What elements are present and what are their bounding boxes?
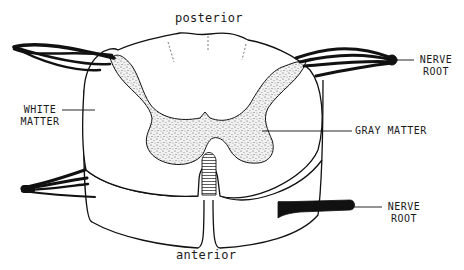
white-matter-label: WHITE MATTER bbox=[18, 104, 62, 128]
nerve-root-lower-right bbox=[278, 200, 355, 218]
white-matter-label-line2: MATTER bbox=[18, 116, 62, 128]
anterior-label: anterior bbox=[176, 249, 236, 261]
nerve-root-bottom-label-line1: NERVE bbox=[384, 201, 424, 213]
nerve-root-top-label: NERVE ROOT bbox=[416, 54, 456, 78]
posterior-label: posterior bbox=[175, 12, 243, 24]
nerve-root-top-label-line1: NERVE bbox=[416, 54, 456, 66]
white-matter-label-line1: WHITE bbox=[18, 104, 62, 116]
nerve-root-top-label-line2: ROOT bbox=[416, 66, 456, 78]
gray-matter-label: GRAY MATTER bbox=[355, 125, 427, 137]
nerve-root-bottom-label-line2: ROOT bbox=[384, 213, 424, 225]
nerve-root-bottom-label: NERVE ROOT bbox=[384, 201, 424, 225]
anterior-fissure bbox=[202, 153, 216, 196]
